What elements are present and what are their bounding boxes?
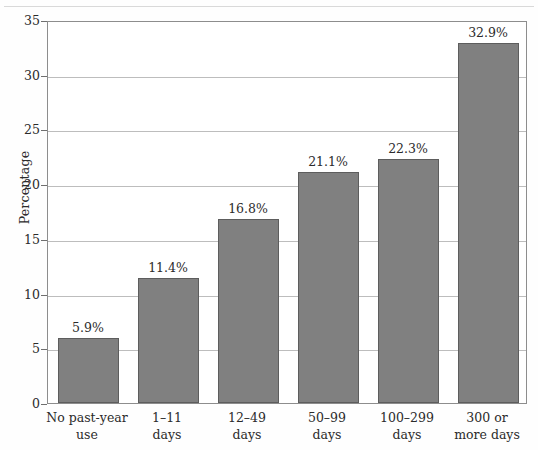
y-axis-tick-label: 30 (6, 69, 40, 82)
y-axis-tick-label: 20 (6, 179, 40, 192)
bar-value-label: 21.1% (288, 156, 369, 169)
y-axis-tick (41, 404, 47, 405)
gridline (48, 77, 526, 78)
y-axis-tick-label: 10 (6, 288, 40, 301)
gridline (48, 186, 526, 187)
y-axis-tick-label: 35 (6, 15, 40, 28)
bar-value-label: 22.3% (368, 143, 449, 156)
page-top-rule (4, 6, 534, 7)
bar-value-label: 5.9% (48, 322, 129, 335)
bar (458, 43, 519, 403)
gridline (48, 350, 526, 351)
y-axis-tick-label: 15 (6, 234, 40, 247)
bar-value-label: 11.4% (128, 262, 209, 275)
bar (378, 159, 439, 403)
gridline (48, 131, 526, 132)
category-label-line-1: 300 or (466, 410, 507, 425)
plot-area: 5.9%11.4%16.8%21.1%22.3%32.9% (47, 21, 527, 404)
category-label-line-1: 100–299 (380, 410, 434, 425)
category-label-line-1: 12–49 (228, 410, 266, 425)
bar-value-label: 16.8% (208, 203, 289, 216)
bar-chart-figure: Percentage 05101520253035 5.9%11.4%16.8%… (0, 0, 538, 450)
bar (138, 278, 199, 403)
bar-value-label: 32.9% (448, 27, 529, 40)
bar (58, 338, 119, 403)
x-axis-category-label: 300 ormore days (435, 410, 538, 443)
bar (218, 219, 279, 403)
category-label-line-1: 50–99 (308, 410, 346, 425)
y-axis-tick-label: 25 (6, 124, 40, 137)
category-label-line-2: more days (435, 427, 538, 444)
y-axis-tick-label: 0 (6, 398, 40, 411)
gridline (48, 241, 526, 242)
y-axis-tick-labels: 05101520253035 (0, 21, 40, 404)
bar (298, 172, 359, 403)
gridline (48, 296, 526, 297)
y-axis-tick-label: 5 (6, 343, 40, 356)
category-label-line-1: 1–11 (152, 410, 182, 425)
